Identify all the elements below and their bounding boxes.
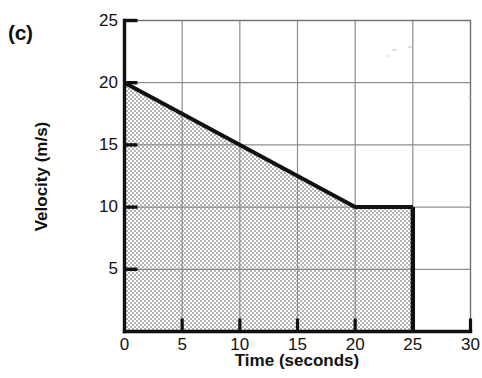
scan-speckle xyxy=(408,46,412,48)
scan-speckle xyxy=(340,273,342,275)
scan-speckle xyxy=(387,55,389,57)
scan-speckle xyxy=(468,96,471,98)
scan-speckle xyxy=(392,49,397,51)
velocity-time-figure: (c) Velocity (m/s) Time (seconds) 510152… xyxy=(0,0,482,378)
plot-area xyxy=(0,0,482,378)
scan-speckle xyxy=(320,253,323,256)
